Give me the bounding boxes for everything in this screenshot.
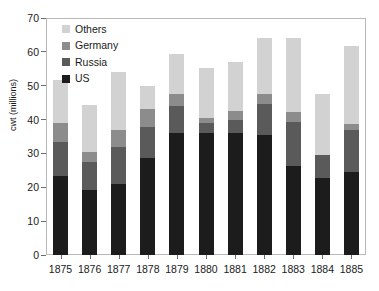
bar-segment-1876-russia[interactable] (82, 162, 97, 190)
x-tick-mark (351, 255, 352, 259)
legend-item-germany[interactable]: Germany (62, 39, 118, 53)
bar-1884[interactable] (315, 18, 330, 255)
bar-1879[interactable] (169, 18, 184, 255)
bar-segment-1882-us[interactable] (257, 135, 272, 255)
y-tick-50: 50 (0, 80, 46, 92)
bar-1885[interactable] (344, 18, 359, 255)
bar-segment-1882-others[interactable] (257, 38, 272, 94)
legend-label: Russia (75, 57, 107, 68)
bar-segment-1885-germany[interactable] (344, 124, 359, 129)
y-tick-30: 30 (0, 147, 46, 159)
bar-segment-1884-us[interactable] (315, 178, 330, 255)
bar-segment-1884-others[interactable] (315, 94, 330, 155)
bar-1880[interactable] (199, 18, 214, 255)
y-tick-label: 40 (27, 114, 39, 126)
y-tick-label: 50 (27, 80, 39, 92)
bar-1882[interactable] (257, 18, 272, 255)
y-tick-label: 20 (27, 181, 39, 193)
legend-item-russia[interactable]: Russia (62, 55, 118, 69)
bar-1881[interactable] (228, 18, 243, 255)
y-tick-70: 70 (0, 12, 46, 24)
bar-1878[interactable] (140, 18, 155, 255)
bar-segment-1876-germany[interactable] (82, 152, 97, 162)
y-tick-label: 10 (27, 215, 39, 227)
bar-1883[interactable] (286, 18, 301, 255)
bar-segment-1881-germany[interactable] (228, 111, 243, 119)
bar-segment-1880-russia[interactable] (199, 123, 214, 133)
bar-segment-1877-russia[interactable] (111, 147, 126, 184)
y-tick-40: 40 (0, 114, 46, 126)
x-tick-mark (148, 255, 149, 259)
x-tick-mark (264, 255, 265, 259)
stacked-bar-chart: cwt (millions) 010203040506070 187518761… (0, 0, 379, 291)
x-tick-mark (235, 255, 236, 259)
bar-segment-1880-us[interactable] (199, 133, 214, 255)
bar-segment-1877-germany[interactable] (111, 130, 126, 147)
y-tick-label: 0 (33, 249, 39, 261)
bar-segment-1881-russia[interactable] (228, 120, 243, 134)
bar-segment-1875-us[interactable] (53, 176, 68, 255)
x-axis-ticks: 1875187618771878187918801881188218831884… (46, 255, 366, 291)
bar-segment-1878-others[interactable] (140, 86, 155, 109)
y-tick-label: 30 (27, 147, 39, 159)
y-tick-label: 70 (27, 12, 39, 24)
x-tick-mark (119, 255, 120, 259)
bar-segment-1877-us[interactable] (111, 184, 126, 255)
x-tick-mark (293, 255, 294, 259)
bar-segment-1881-others[interactable] (228, 62, 243, 111)
bar-segment-1885-others[interactable] (344, 46, 359, 125)
legend-label: Others (75, 24, 107, 35)
legend-swatch-icon (62, 42, 70, 50)
bar-segment-1879-russia[interactable] (169, 106, 184, 133)
y-tick-10: 10 (0, 215, 46, 227)
bar-segment-1881-us[interactable] (228, 133, 243, 255)
x-tick-mark (322, 255, 323, 259)
legend-swatch-icon (62, 58, 70, 66)
legend-label: Germany (75, 40, 118, 51)
legend-item-others[interactable]: Others (62, 22, 118, 36)
bar-segment-1879-us[interactable] (169, 133, 184, 255)
y-tick-20: 20 (0, 181, 46, 193)
bar-segment-1884-russia[interactable] (315, 155, 330, 178)
x-tick-label: 1885 (331, 263, 371, 275)
bar-segment-1883-russia[interactable] (286, 122, 301, 167)
legend-item-us[interactable]: US (62, 72, 118, 86)
bar-segment-1880-germany[interactable] (199, 118, 214, 123)
bar-segment-1883-germany[interactable] (286, 112, 301, 122)
bar-segment-1879-others[interactable] (169, 54, 184, 94)
legend-swatch-icon (62, 75, 70, 83)
bar-segment-1885-us[interactable] (344, 172, 359, 255)
bar-segment-1879-germany[interactable] (169, 94, 184, 106)
bar-segment-1883-us[interactable] (286, 166, 301, 255)
bar-segment-1882-russia[interactable] (257, 104, 272, 135)
y-axis-ticks: 010203040506070 (0, 0, 46, 291)
chart-legend: OthersGermanyRussiaUS (62, 22, 118, 88)
y-tick-label: 60 (27, 46, 39, 58)
y-tick-60: 60 (0, 46, 46, 58)
legend-swatch-icon (62, 25, 70, 33)
bar-segment-1883-others[interactable] (286, 38, 301, 111)
bar-segment-1878-germany[interactable] (140, 109, 155, 127)
x-tick-mark (206, 255, 207, 259)
y-tick-0: 0 (0, 249, 46, 261)
bar-segment-1876-others[interactable] (82, 105, 97, 152)
x-tick-mark (177, 255, 178, 259)
bar-segment-1876-us[interactable] (82, 190, 97, 255)
bar-segment-1882-germany[interactable] (257, 94, 272, 104)
bar-segment-1878-russia[interactable] (140, 127, 155, 157)
legend-label: US (75, 73, 90, 84)
bar-segment-1875-russia[interactable] (53, 142, 68, 176)
bar-segment-1875-germany[interactable] (53, 123, 68, 142)
bar-segment-1880-others[interactable] (199, 68, 214, 118)
bar-segment-1885-russia[interactable] (344, 130, 359, 173)
x-tick-mark (90, 255, 91, 259)
bar-segment-1878-us[interactable] (140, 158, 155, 256)
x-tick-mark (61, 255, 62, 259)
